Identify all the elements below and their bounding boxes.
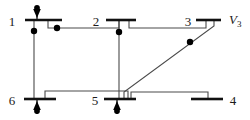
node-bus2-tap[interactable]	[116, 29, 122, 35]
voltage-label-v3: V3	[229, 12, 242, 29]
injection-bus-1-dot	[34, 5, 40, 11]
injection-group	[33, 5, 121, 114]
bus-label-4: 4	[230, 93, 237, 108]
injection-bus-5	[113, 99, 121, 114]
injection-bus-1	[33, 5, 41, 20]
branch-3-5	[124, 20, 214, 99]
injection-bus-5-dot	[114, 108, 120, 114]
voltage-label-v3-subscript: 3	[237, 19, 242, 29]
branch-2-3	[129, 20, 206, 28]
bus-label-3: 3	[185, 14, 192, 29]
injection-bus-6-dot	[34, 108, 40, 114]
diagram-canvas: 1 2 3 4 5 6 V3	[0, 0, 250, 120]
node-bus1-tap[interactable]	[31, 28, 37, 34]
node-line-1-2[interactable]	[54, 25, 60, 31]
voltage-label-group: V3	[229, 12, 242, 29]
bus-label-6: 6	[9, 93, 16, 108]
branch-group	[34, 20, 214, 99]
injection-bus-6	[33, 99, 41, 114]
bus-label-1: 1	[9, 14, 16, 29]
single-line-diagram: 1 2 3 4 5 6 V3	[0, 0, 250, 120]
node-line-3-5[interactable]	[187, 39, 193, 45]
bus-bar-group	[24, 20, 223, 99]
bus-label-5: 5	[92, 93, 99, 108]
bus-label-2: 2	[93, 14, 100, 29]
